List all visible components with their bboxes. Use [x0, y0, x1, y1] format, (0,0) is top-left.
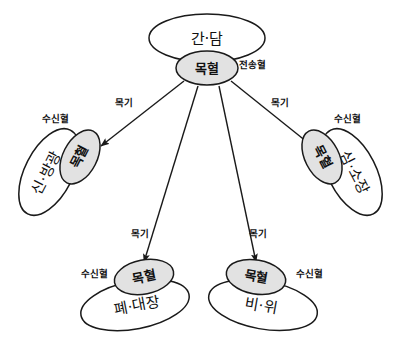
- node-bottom-right[interactable]: 비·위 목혈 수신혈: [205, 255, 323, 338]
- left-annotation-label: 수신혈: [42, 113, 69, 124]
- edge-label-bottom-left: 목기: [131, 228, 149, 239]
- right-annotation-label: 수신혈: [334, 113, 361, 124]
- connector-to-left: [101, 81, 184, 146]
- node-source[interactable]: 간·담 목혈 전송혈: [149, 14, 266, 85]
- source-organ-label: 간·담: [191, 30, 224, 48]
- node-left[interactable]: 신·방광 목혈 수신혈: [6, 113, 108, 225]
- source-annotation-label: 전송혈: [239, 59, 266, 70]
- flow-diagram: 간·담 목혈 전송혈 목기 목기 목기 목기 신·방광 목혈 수신혈 심·소장 …: [0, 0, 402, 352]
- diagram-canvas: 간·담 목혈 전송혈 목기 목기 목기 목기 신·방광 목혈 수신혈 심·소장 …: [0, 0, 402, 352]
- connector-to-bottom-left: [144, 86, 198, 262]
- edge-label-right: 목기: [271, 97, 289, 108]
- connector-to-right: [231, 81, 312, 146]
- node-bottom-left[interactable]: 폐·대장 목혈 수신혈: [76, 255, 193, 339]
- bottom-right-annotation-label: 수신혈: [296, 268, 323, 279]
- edge-label-group: 목기 목기 목기 목기: [115, 97, 289, 239]
- edge-label-left: 목기: [115, 97, 133, 108]
- node-right[interactable]: 심·소장 목혈 수신혈: [294, 113, 395, 225]
- bottom-left-annotation-label: 수신혈: [81, 268, 108, 279]
- edge-label-bottom-right: 목기: [249, 228, 267, 239]
- source-point-label: 목혈: [195, 61, 219, 76]
